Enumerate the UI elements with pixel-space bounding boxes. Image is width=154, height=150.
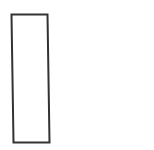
canvas-background: [0, 0, 154, 150]
diagram-canvas: [0, 0, 154, 150]
